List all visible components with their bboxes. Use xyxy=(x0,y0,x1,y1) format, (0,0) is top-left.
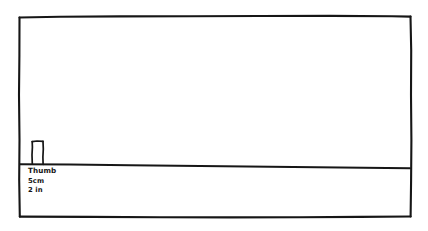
hand-drawn-sketch: Thumb 5cm 2 in xyxy=(0,0,428,231)
label-thumb: Thumb xyxy=(28,166,56,175)
border-right-edge xyxy=(411,17,412,217)
border-bottom-edge xyxy=(20,217,411,218)
thumb-top-edge xyxy=(32,141,43,142)
label-imperial-measure: 2 in xyxy=(28,186,43,194)
label-metric-measure: 5cm xyxy=(28,177,44,185)
border-left-edge xyxy=(19,18,20,217)
canvas-background xyxy=(0,0,428,231)
sketch-canvas: Thumb 5cm 2 in xyxy=(0,0,428,231)
